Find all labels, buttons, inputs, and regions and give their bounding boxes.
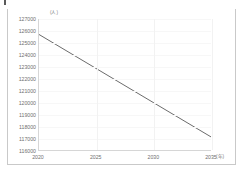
y-axis-tick-label: 126000 xyxy=(4,28,36,34)
gridline-horizontal xyxy=(39,139,211,140)
gridline-horizontal xyxy=(39,31,211,32)
y-axis-tick-labels: 1160001170001180001190001200001210001220… xyxy=(2,19,36,151)
y-axis-tick-label: 117000 xyxy=(4,136,36,142)
corner-mark-icon xyxy=(4,0,6,5)
gridline-vertical xyxy=(212,19,213,150)
gridline-horizontal xyxy=(39,19,211,20)
gridline-horizontal xyxy=(39,91,211,92)
y-axis-tick-label: 119000 xyxy=(4,112,36,118)
y-axis-tick-label: 122000 xyxy=(4,76,36,82)
x-axis-tick-label: 2020 xyxy=(23,153,53,161)
y-axis-tick-label: 125000 xyxy=(4,40,36,46)
x-axis-unit-label: (年) xyxy=(216,153,224,161)
x-axis-tick-label: 2030 xyxy=(138,153,168,161)
plot-area xyxy=(38,19,211,151)
gridline-horizontal xyxy=(39,67,211,68)
gridline-horizontal xyxy=(39,55,211,56)
gridline-horizontal xyxy=(39,115,211,116)
y-axis-tick-label: 118000 xyxy=(4,124,36,130)
x-axis-tick-labels: 2020202520302035 xyxy=(38,153,211,165)
y-axis-tick-label: 124000 xyxy=(4,52,36,58)
gridline-vertical xyxy=(97,19,98,150)
line-series xyxy=(39,19,211,150)
y-axis-tick-label: 120000 xyxy=(4,100,36,106)
gridline-horizontal xyxy=(39,79,211,80)
chart-root: (人) 116000117000118000119000120000121000… xyxy=(0,0,241,174)
y-axis-tick-label: 121000 xyxy=(4,88,36,94)
x-axis-tick-label: 2025 xyxy=(81,153,111,161)
gridline-horizontal xyxy=(39,127,211,128)
y-axis-tick-label: 123000 xyxy=(4,64,36,70)
gridline-horizontal xyxy=(39,103,211,104)
series-line-population xyxy=(39,34,211,136)
gridline-horizontal xyxy=(39,43,211,44)
y-axis-tick-label: 127000 xyxy=(4,16,36,22)
gridline-vertical xyxy=(154,19,155,150)
